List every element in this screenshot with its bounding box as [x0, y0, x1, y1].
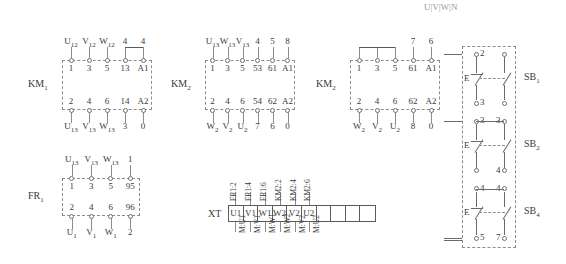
inner-label-km3-bottom-4: A2 [416, 97, 446, 106]
xt-cell-8[interactable] [346, 206, 361, 221]
sb-lead-0-tl [476, 57, 477, 73]
xt-cell-9[interactable] [360, 206, 375, 221]
block-label-km3: KM2 [316, 78, 336, 92]
inner-label-km1-top-4: A1 [128, 64, 158, 73]
lead-km1-top-4 [143, 47, 144, 58]
sb-nc-bar-0 [471, 74, 483, 75]
sb-lead-1-br [504, 152, 505, 168]
terminal-km2-top-5[interactable] [285, 58, 290, 63]
sb-lead-0-br [504, 85, 505, 101]
sb-lead-1-tl [476, 124, 477, 140]
xt-bottom-label-2: M:W1 [268, 213, 277, 233]
sb-actuator-glyph-2: E [464, 208, 470, 217]
terminal-km3-top-3[interactable] [411, 58, 416, 63]
terminal-km3-top-1[interactable] [375, 58, 380, 63]
lead-km3-top-0 [359, 47, 360, 58]
block-label-fr1: FR1 [28, 190, 44, 204]
sb-node-0-bottom-left[interactable] [474, 101, 479, 106]
sb-lead-1-tr [504, 124, 505, 140]
corner-mark-label: U|V|W|N [424, 2, 457, 12]
xt-top-label-0: FR1:2 [229, 182, 238, 201]
sb-lead-0-tr [504, 57, 505, 73]
terminal-fr1-top-1[interactable] [89, 176, 94, 181]
outer-label-km2-top-5: 8 [271, 37, 305, 46]
terminal-km1-top-4[interactable] [141, 58, 146, 63]
sb-actuator-glyph-1: E [464, 141, 470, 150]
sb-node-2-bottom-right[interactable] [502, 236, 507, 241]
sb-nc-bar-1 [471, 141, 483, 142]
terminal-km2-top-3[interactable] [255, 58, 260, 63]
sb-lead-2-bl [476, 219, 477, 235]
terminal-km3-top-2[interactable] [393, 58, 398, 63]
terminal-km2-top-4[interactable] [270, 58, 275, 63]
sb-node-0-top-left[interactable] [474, 52, 479, 57]
terminal-km1-top-1[interactable] [87, 58, 92, 63]
xt-cell-7[interactable] [331, 206, 346, 221]
sb-lead-2-br [504, 219, 505, 235]
xt-bottom-stub-4 [295, 222, 296, 232]
sb-lead-2-tr [504, 192, 505, 208]
xt-top-label-2: FR1:6 [259, 182, 268, 201]
sb-nc-bar-2 [471, 208, 483, 209]
xt-bottom-label-4: M:V2 [298, 215, 307, 233]
sb-lead-2-tl [476, 192, 477, 208]
inner-label-km2-bottom-5: A2 [273, 97, 303, 106]
terminal-km2-top-2[interactable] [240, 58, 245, 63]
xt-bottom-label-0: M:U1 [238, 215, 247, 233]
outer-label-km1-bottom-4: 0 [126, 122, 160, 131]
lead-km1-top-3 [125, 47, 126, 58]
outer-label-fr1-top-3: 1 [113, 155, 147, 164]
jumper-km1-0 [125, 47, 143, 48]
lead-km3-top-2 [395, 47, 396, 58]
xt-bottom-stub-0 [235, 222, 236, 232]
sb-num-0-bl: 3 [480, 98, 485, 107]
terminal-km1-top-3[interactable] [123, 58, 128, 63]
jumper-km3-0 [359, 47, 377, 48]
sb-link-bar-1 [476, 121, 504, 122]
xt-top-label-5: KM2:6 [303, 179, 312, 201]
terminal-km1-top-0[interactable] [69, 58, 74, 63]
xt-top-label-1: FR1:4 [244, 182, 253, 201]
sb-bus-out-bottom [444, 238, 462, 239]
xt-bottom-label-5: M:U2 [312, 215, 321, 233]
sb-node-0-top-right[interactable] [502, 52, 507, 57]
xt-bottom-stub-2 [265, 222, 266, 232]
sb-actuator-link-1 [479, 145, 505, 146]
xt-top-label-3: KM2:2 [274, 179, 283, 201]
terminal-fr1-top-0[interactable] [69, 176, 74, 181]
outer-label-fr1-bottom-3: 2 [113, 228, 147, 237]
xt-bottom-stub-5 [309, 222, 310, 232]
sb-bus-1 [444, 121, 462, 122]
terminal-fr1-top-3[interactable] [128, 176, 133, 181]
sb-node-1-bottom-left[interactable] [474, 168, 479, 173]
terminal-fr1-top-2[interactable] [108, 176, 113, 181]
lead-km3-top-3 [413, 47, 414, 58]
inner-label-km3-top-4: A1 [416, 64, 446, 73]
sb-bus-out-bottom2 [444, 240, 462, 241]
outer-label-km3-top-4: 6 [414, 37, 448, 46]
inner-label-fr1-top-3: 95 [115, 182, 145, 191]
sb-label-2: SB4 [524, 205, 540, 219]
outer-label-km1-top-4: 4 [126, 37, 160, 46]
sb-actuator-link-0 [479, 78, 505, 79]
sb-node-2-bottom-left[interactable] [474, 236, 479, 241]
sb-actuator-link-2 [479, 212, 505, 213]
terminal-km1-top-2[interactable] [105, 58, 110, 63]
lead-km3-top-1 [377, 47, 378, 58]
sb-num-0-tl: 2 [480, 49, 485, 58]
outer-label-km2-bottom-5: 0 [271, 122, 305, 131]
sb-actuator-glyph-0: E [464, 74, 470, 83]
xt-top-label-4: KM2:4 [289, 179, 298, 201]
xt-caption: XT [208, 208, 221, 219]
sb-node-0-bottom-right[interactable] [502, 101, 507, 106]
sb-label-1: SB2 [524, 138, 540, 152]
jumper-km3-1 [377, 47, 395, 48]
sb-num-2-br: 7 [496, 233, 501, 242]
block-label-km2: KM2 [171, 78, 191, 92]
terminal-km2-top-0[interactable] [210, 58, 215, 63]
sb-node-1-bottom-right[interactable] [502, 168, 507, 173]
terminal-km3-top-0[interactable] [357, 58, 362, 63]
terminal-km2-top-1[interactable] [225, 58, 230, 63]
sb-bus-in-top [444, 54, 462, 55]
terminal-km3-top-4[interactable] [429, 58, 434, 63]
